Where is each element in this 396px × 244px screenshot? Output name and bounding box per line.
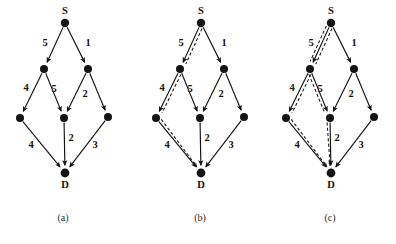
edge-weight-r-d: 3 [358, 139, 363, 150]
edge-weight-r-d: 3 [228, 139, 233, 150]
panel-caption-b: (b) [194, 212, 206, 224]
edge-weight-s-ul: 5 [308, 37, 313, 48]
edge-s-ur [67, 27, 85, 62]
source-node-label: S [62, 5, 68, 16]
edge-weight-m-d: 2 [334, 132, 339, 143]
edge-m-d [330, 123, 331, 166]
sink-node-label: D [197, 179, 205, 190]
edge-weight-ur-m: 2 [348, 88, 353, 99]
sink-node-label: D [61, 179, 69, 190]
edge-r-d [336, 121, 371, 167]
graph-node-l [16, 114, 24, 122]
graph-node-ur [220, 65, 228, 73]
graph-figure-canvas: SD51452423SD51452423SD51452423 (a)(b)(c) [0, 0, 396, 244]
edge-r-d [70, 121, 105, 167]
edge-weight-l-d: 4 [164, 139, 170, 150]
graph-node-ur [84, 65, 92, 73]
edge-weight-m-d: 2 [204, 132, 209, 143]
graph-node-ul [40, 65, 48, 73]
panel-caption-a: (a) [57, 212, 68, 224]
graph-node-d [327, 169, 336, 178]
graph-node-ul [176, 65, 184, 73]
edge-ur-r [356, 73, 371, 110]
edge-weight-s-ul: 5 [42, 37, 47, 48]
panel-caption-c: (c) [324, 212, 335, 224]
graph-node-m [326, 114, 334, 122]
graph-panel-a: SD51452423 [16, 5, 112, 191]
edge-weight-s-ur: 1 [221, 37, 226, 48]
edge-weight-l-d: 4 [294, 139, 300, 150]
edge-r-d [206, 121, 241, 167]
edge-weight-ul-l: 4 [159, 82, 165, 93]
edge-weight-ul-l: 4 [23, 82, 29, 93]
edge-m-d [64, 123, 65, 166]
edge-ur-r [226, 73, 241, 110]
sink-node-label: D [327, 179, 335, 190]
edge-weight-ur-m: 2 [82, 88, 87, 99]
edge-s-ul [47, 27, 63, 62]
edge-weight-m-d: 2 [68, 132, 73, 143]
edge-m-d [200, 123, 201, 166]
graph-node-m [196, 114, 204, 122]
graph-node-l [152, 114, 160, 122]
graph-node-s [327, 19, 335, 27]
graph-node-m [60, 114, 68, 122]
edge-s-ul [313, 27, 329, 62]
dashed-segment-ul-l [162, 74, 181, 113]
edge-weight-l-d: 4 [28, 139, 34, 150]
graph-node-l [282, 114, 290, 122]
edge-s-ur [203, 27, 221, 62]
graph-node-r [240, 113, 248, 121]
graph-node-s [197, 19, 205, 27]
edge-weight-s-ur: 1 [351, 37, 356, 48]
source-node-label: S [198, 5, 204, 16]
source-node-label: S [328, 5, 334, 16]
edge-weight-r-d: 3 [92, 139, 97, 150]
edge-weight-ul-l: 4 [289, 82, 295, 93]
edge-ur-r [90, 73, 105, 110]
edge-weight-ul-m: 5 [317, 83, 322, 94]
figure-container: SD51452423SD51452423SD51452423 (a)(b)(c) [0, 0, 396, 244]
edge-weight-s-ul: 5 [178, 37, 183, 48]
edge-weight-ur-m: 2 [218, 88, 223, 99]
graph-panel-c: SD51452423 [282, 5, 378, 191]
dashed-segment-s-ul [186, 29, 202, 64]
edge-weight-ul-m: 5 [51, 83, 56, 94]
graph-panel-b: SD51452423 [152, 5, 248, 191]
graph-node-d [61, 169, 70, 178]
graph-node-r [370, 113, 378, 121]
graph-node-r [104, 113, 112, 121]
dashed-segment-s-ul [316, 29, 332, 64]
edge-s-ur [333, 27, 351, 62]
graph-node-d [197, 169, 206, 178]
edge-s-ul [183, 27, 199, 62]
edge-weight-ul-m: 5 [187, 83, 192, 94]
edge-weight-s-ur: 1 [85, 37, 90, 48]
graph-node-s [61, 19, 69, 27]
graph-node-ur [350, 65, 358, 73]
graph-node-ul [306, 65, 314, 73]
dashed-segment-ul-l [292, 74, 311, 113]
